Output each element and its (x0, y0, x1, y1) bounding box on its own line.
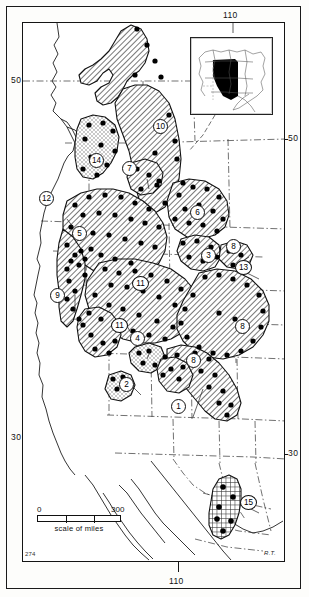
region-callout-9[interactable]: 9 (50, 288, 65, 303)
region-callout-12[interactable]: 12 (39, 191, 54, 206)
tick-bottom-110 (178, 562, 179, 572)
scale-max-label: 300 (111, 505, 124, 515)
artist-signature: R.T. (264, 550, 276, 556)
region-callout-10[interactable]: 10 (153, 119, 168, 134)
region-callout-8-east[interactable]: 8 (235, 319, 250, 334)
region-callout-8-south[interactable]: 8 (186, 353, 201, 368)
page-number: 274 (25, 551, 36, 557)
latitude-label-right-upper: 50 (288, 134, 298, 143)
map-neatline: 10 14 7 12 6 5 3 8 13 9 11 8 11 4 8 2 1 … (22, 22, 285, 562)
north-america-locator-inset (190, 37, 273, 115)
region-callout-1[interactable]: 1 (171, 399, 186, 414)
region-callout-2[interactable]: 2 (119, 377, 134, 392)
latitude-label-left-upper: 50 (11, 76, 21, 85)
latitude-label-right-lower: 30 (288, 449, 298, 458)
figure-map-page: 110 110 50 30 50 30 (0, 0, 309, 597)
scale-caption: scale of miles (37, 524, 121, 533)
region-callout-11-west[interactable]: 11 (111, 318, 128, 333)
longitude-label-top: 110 (223, 11, 238, 20)
region-callout-14[interactable]: 14 (89, 153, 104, 168)
scale-bar: 0 300 scale of miles (37, 505, 133, 533)
region-callout-11-central[interactable]: 11 (132, 276, 149, 291)
region-callout-6[interactable]: 6 (190, 205, 205, 220)
region-callout-4[interactable]: 4 (130, 331, 145, 346)
longitude-label-bottom: 110 (169, 577, 184, 586)
region-callout-8-north[interactable]: 8 (226, 239, 241, 254)
region-callout-13[interactable]: 13 (235, 260, 252, 275)
region-callout-7[interactable]: 7 (122, 161, 137, 176)
latitude-label-left-lower: 30 (11, 433, 21, 442)
scale-min-label: 0 (37, 505, 41, 515)
inset-graphic (191, 38, 272, 114)
region-shape-8 (177, 269, 269, 359)
region-callout-15[interactable]: 15 (240, 495, 257, 510)
region-callout-3[interactable]: 3 (201, 248, 216, 263)
region-callout-5[interactable]: 5 (72, 226, 87, 241)
